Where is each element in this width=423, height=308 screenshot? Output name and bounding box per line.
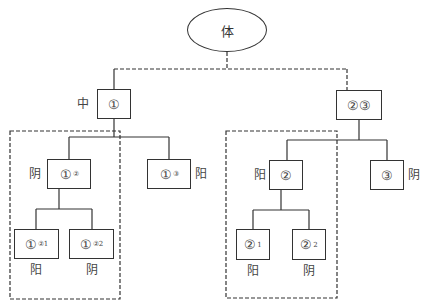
node-1-3: ①③ <box>147 159 191 189</box>
node-3: ③ <box>370 160 404 190</box>
node-2-2-text: ② <box>300 237 312 252</box>
node-2-1: ②1 <box>236 229 270 260</box>
node-1-2: ①② <box>47 159 91 189</box>
node-2-1-label: 阳 <box>247 264 259 278</box>
node-3-label: 阴 <box>408 168 420 182</box>
group-box-right <box>226 131 337 298</box>
node-2-2: ②2 <box>292 229 326 260</box>
node-1-2-label: 阴 <box>29 167 41 181</box>
node-1-22-sub: ②2 <box>93 240 103 248</box>
node-1-2-sub: ② <box>73 170 79 178</box>
node-1-3-sub: ③ <box>173 170 179 178</box>
node-23: ②③ <box>336 90 382 120</box>
group-box-left <box>10 131 120 299</box>
node-1-22-label: 阴 <box>86 263 98 277</box>
node-2-2-sub: 2 <box>313 241 317 249</box>
node-1-label: 中 <box>77 97 89 111</box>
node-2-1-sub: 1 <box>257 241 261 249</box>
node-2-1-text: ② <box>244 237 256 252</box>
node-2: ② <box>269 160 303 190</box>
node-1-22-text: ① <box>80 237 92 252</box>
root-node: 体 <box>187 8 267 52</box>
node-2-2-label: 阴 <box>303 264 315 278</box>
node-1-21: ①②1 <box>14 229 59 259</box>
node-23-text: ②③ <box>347 98 371 113</box>
node-3-text: ③ <box>381 168 393 183</box>
node-2-label: 阳 <box>254 168 266 182</box>
node-1-22: ①②2 <box>69 229 114 259</box>
node-1: ① <box>97 89 131 119</box>
node-1-21-text: ① <box>25 237 37 252</box>
node-1-21-sub: ②1 <box>38 240 48 248</box>
node-1-text: ① <box>108 97 120 112</box>
node-2-text: ② <box>280 168 292 183</box>
node-1-21-label: 阳 <box>30 263 42 277</box>
node-1-3-text: ① <box>160 167 172 182</box>
root-label: 体 <box>221 21 234 40</box>
node-1-2-text: ① <box>60 167 72 182</box>
node-1-3-label: 阳 <box>195 167 207 181</box>
